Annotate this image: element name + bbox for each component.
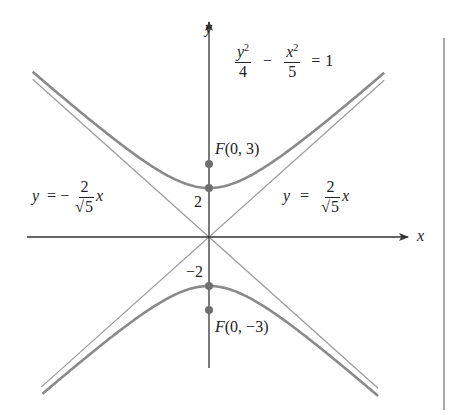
eq-rhs: 1 — [325, 52, 333, 69]
hyperbola-figure: y x y2 4 − x2 5 =1 y =− 2 √5 x y = 2 √5 … — [0, 0, 458, 415]
vertex-top-point — [205, 184, 213, 192]
asymptote-right-label: y = 2 √5 x — [283, 179, 349, 216]
focus-bottom-point — [205, 306, 213, 314]
sqrt-icon: √ — [321, 198, 330, 215]
eq-minus: − — [263, 52, 272, 69]
asym-right-root-arg: 5 — [330, 197, 340, 215]
asym-right-equals: = — [300, 187, 309, 204]
eq-x-exp: 2 — [293, 42, 298, 53]
sqrt-icon: √ — [75, 198, 84, 215]
asym-right-num: 2 — [325, 179, 337, 198]
asymptote-left-label: y =− 2 √5 x — [32, 179, 103, 216]
fraction-x2-over-5: x2 5 — [284, 44, 300, 81]
asym-left-equals: = — [47, 187, 56, 204]
asym-right-fraction: 2 √5 — [321, 179, 340, 216]
eq-y-exp: 2 — [244, 42, 249, 53]
eq-den-5: 5 — [288, 63, 296, 81]
focus-bottom-coords: (0, −3) — [225, 318, 269, 335]
asym-left-y: y — [32, 187, 39, 204]
focus-top-F: F — [215, 140, 225, 157]
asym-left-fraction: 2 √5 — [75, 179, 94, 216]
eq-den-4: 4 — [239, 63, 247, 81]
vertex-top-label: 2 — [194, 194, 202, 210]
hyperbola-equation: y2 4 − x2 5 =1 — [233, 44, 333, 81]
focus-top-label: F(0, 3) — [215, 141, 259, 157]
asym-left-sign: − — [60, 187, 69, 204]
vertex-bottom-point — [205, 282, 213, 290]
x-axis-label: x — [417, 228, 424, 244]
asym-left-num: 2 — [79, 179, 91, 198]
asym-left-x: x — [96, 187, 103, 204]
asym-right-y: y — [283, 187, 290, 204]
asymptote-positive-line — [41, 80, 384, 387]
vertex-bottom-label: −2 — [186, 264, 203, 280]
eq-equals: = — [311, 52, 320, 69]
focus-bottom-label: F(0, −3) — [215, 319, 268, 335]
fraction-y2-over-4: y2 4 — [235, 44, 251, 81]
asym-right-x: x — [342, 187, 349, 204]
asym-left-root-arg: 5 — [84, 197, 94, 215]
focus-top-point — [205, 160, 213, 168]
asymptote-negative-line — [33, 79, 378, 388]
focus-top-coords: (0, 3) — [225, 140, 260, 157]
focus-bottom-F: F — [215, 318, 225, 335]
y-axis-label: y — [205, 20, 212, 36]
